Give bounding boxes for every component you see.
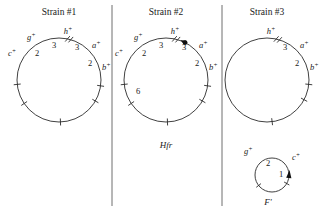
gene-tick-a (199, 99, 205, 103)
distance-label: 2 (142, 48, 146, 58)
chromosome-circle-strain-3 (225, 38, 309, 122)
chromosome-circle-strain-1 (17, 38, 101, 122)
figure-canvas: Strain #1c+g+h+a+b+2332Strain #2c+g+h+a+… (0, 0, 334, 216)
gene-label-h: h+ (267, 25, 276, 36)
distance-label: 3 (75, 42, 79, 52)
distance-label: 2 (35, 48, 39, 58)
gene-tick-a (92, 99, 98, 103)
gene-label-a: a+ (92, 39, 101, 50)
gene-label-b: b+ (102, 61, 111, 72)
gene-tick-b (97, 85, 104, 86)
chromosome-circle-strain-2 (124, 38, 208, 122)
plasmid-distance-label: 1 (279, 169, 283, 179)
gene-tick-c (14, 84, 21, 85)
gene-label-g: g+ (244, 145, 253, 156)
gene-tick-a (301, 98, 307, 101)
panel-title-strain-2: Strain #2 (149, 7, 184, 17)
distance-label: 2 (295, 58, 299, 68)
gene-label-h: h+ (64, 25, 73, 36)
panel-title-strain-3: Strain #3 (250, 7, 285, 17)
distance-label: 2 (195, 58, 199, 68)
gene-tick-b (305, 84, 312, 85)
plasmid-distance-label: 2 (266, 158, 270, 168)
gene-tick-g (21, 102, 27, 106)
gene-label-b: b+ (209, 61, 218, 72)
plasmid-gene-tick-c (284, 182, 289, 185)
panel-caption-strain-2: Hfr (159, 140, 173, 150)
gene-tick-h (272, 118, 273, 125)
gene-label-a: a+ (300, 39, 309, 50)
genetic-map-figure: Strain #1c+g+h+a+b+2332Strain #2c+g+h+a+… (0, 0, 334, 216)
plasmid-circle (255, 158, 289, 192)
distance-label: 2 (88, 58, 92, 68)
distance-label: 3 (159, 40, 163, 50)
panel-strain-3: Strain #3h+a+b+32 (225, 7, 319, 125)
distance-label: 3 (52, 40, 56, 50)
gene-tick-c (121, 84, 128, 85)
distance-label: 3 (283, 42, 287, 52)
gene-tick-g (128, 102, 134, 106)
panel-title-strain-1: Strain #1 (42, 7, 77, 17)
gene-label-c: c+ (292, 151, 300, 162)
panel-strain-2: Strain #2c+g+h+a+b+23326Hfr (115, 7, 218, 150)
gene-label-c: c+ (8, 47, 16, 58)
gene-label-b: b+ (310, 61, 319, 72)
gene-label-g: g+ (27, 31, 36, 42)
plasmid-caption: F' (263, 197, 272, 207)
panel-strain-1: Strain #1c+g+h+a+b+2332 (8, 7, 111, 125)
gene-label-h: h+ (171, 25, 180, 36)
gene-label-g: g+ (134, 31, 143, 42)
plasmid-f-prime: g+c+21F' (244, 145, 300, 207)
distance-label: 6 (136, 86, 140, 96)
gene-label-c: c+ (115, 47, 123, 58)
gene-tick-b (204, 85, 211, 86)
gene-label-a: a+ (199, 39, 208, 50)
